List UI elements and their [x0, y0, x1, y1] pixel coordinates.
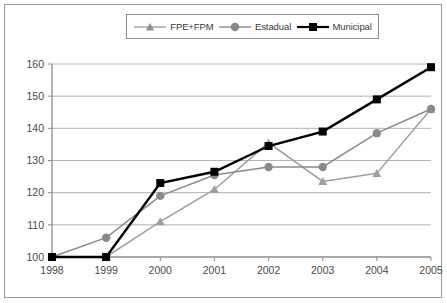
- x-axis-labels: 19981999200020012002200320042005: [40, 264, 443, 276]
- y-tick-label: 160: [26, 58, 44, 70]
- chart-plot-area: 100110120130140150160 199819992000200120…: [0, 0, 447, 303]
- data-point-marker: [102, 253, 110, 261]
- data-point-marker: [210, 168, 218, 176]
- x-tick-label: 2002: [257, 264, 281, 276]
- x-tick-label: 2003: [311, 264, 335, 276]
- x-tick-label: 2004: [365, 264, 389, 276]
- y-axis-labels: 100110120130140150160: [26, 58, 44, 263]
- chart-screenshot: FPE+FPM Estadual Municipal 1001101201301…: [0, 0, 447, 303]
- data-point-marker: [48, 253, 56, 261]
- data-point-marker: [373, 95, 381, 103]
- data-series-markers: [48, 63, 436, 261]
- x-tick-label: 1998: [40, 264, 64, 276]
- data-point-marker: [156, 217, 165, 225]
- data-point-marker: [102, 234, 110, 242]
- y-tick-label: 140: [26, 122, 44, 134]
- data-point-marker: [265, 142, 273, 150]
- y-tick-label: 110: [27, 219, 44, 231]
- y-tick-label: 100: [26, 251, 44, 263]
- grid-lines: [52, 64, 431, 225]
- x-tick-label: 1999: [94, 264, 118, 276]
- x-tick-label: 2005: [419, 264, 443, 276]
- data-point-marker: [156, 192, 164, 200]
- y-tick-label: 150: [26, 90, 44, 102]
- data-point-marker: [319, 163, 327, 171]
- data-point-marker: [427, 105, 435, 113]
- data-point-marker: [156, 179, 164, 187]
- data-point-marker: [264, 163, 272, 171]
- x-tick-label: 2000: [149, 264, 173, 276]
- data-point-marker: [427, 63, 435, 71]
- data-point-marker: [319, 128, 327, 136]
- data-point-marker: [373, 129, 381, 137]
- y-tick-label: 130: [26, 154, 44, 166]
- x-tick-label: 2001: [203, 264, 227, 276]
- y-tick-label: 120: [26, 186, 44, 198]
